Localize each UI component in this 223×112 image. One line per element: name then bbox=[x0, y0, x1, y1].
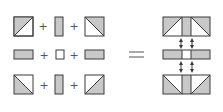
top-piece-1-square-icon bbox=[14, 17, 33, 36]
bottom-row: + + bbox=[14, 75, 104, 94]
top-row: + + bbox=[14, 17, 104, 36]
double-arrow-icon bbox=[181, 40, 192, 47]
equals-operator bbox=[129, 52, 144, 57]
plus-operator: + bbox=[69, 20, 78, 33]
plus-operator: + bbox=[38, 20, 47, 33]
result-middle-composite-icon bbox=[163, 50, 210, 59]
plus-operator: + bbox=[39, 79, 48, 92]
bottom-piece-2-tall-rect-icon bbox=[55, 75, 63, 94]
result-top-composite-icon bbox=[163, 17, 210, 36]
plus-operator: + bbox=[69, 49, 78, 62]
top-piece-3-square-icon bbox=[85, 17, 104, 36]
plus-operator: + bbox=[69, 79, 78, 92]
bottom-piece-1-square-icon bbox=[14, 75, 33, 94]
double-arrow-icon bbox=[181, 63, 192, 71]
top-piece-2-tall-rect-icon bbox=[55, 17, 63, 36]
plus-operator: + bbox=[39, 49, 48, 62]
middle-piece-3-wide-rect-icon bbox=[85, 50, 104, 59]
middle-piece-1-wide-rect-icon bbox=[14, 50, 33, 59]
result-composite bbox=[163, 17, 210, 94]
bottom-piece-3-square-icon bbox=[85, 75, 104, 94]
decomposition-diagram: + + + + + bbox=[0, 0, 223, 112]
middle-row: + + bbox=[14, 49, 104, 62]
result-bottom-composite-icon bbox=[163, 75, 210, 94]
middle-piece-2-small-square-icon bbox=[56, 50, 64, 59]
